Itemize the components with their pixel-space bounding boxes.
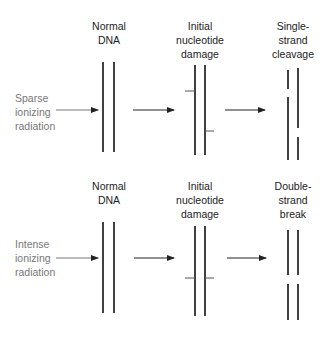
panel-intense [56,222,298,320]
dna-single-strand-cleavage [288,68,298,160]
dna-double-strand-break [288,230,298,320]
dna-normal-bottom [103,222,114,313]
dna-damaged-top [185,65,214,155]
dna-damage-diagram [0,0,327,340]
panel-sparse [56,62,298,160]
dna-normal-top [103,62,114,152]
dna-damaged-bottom [185,226,214,316]
